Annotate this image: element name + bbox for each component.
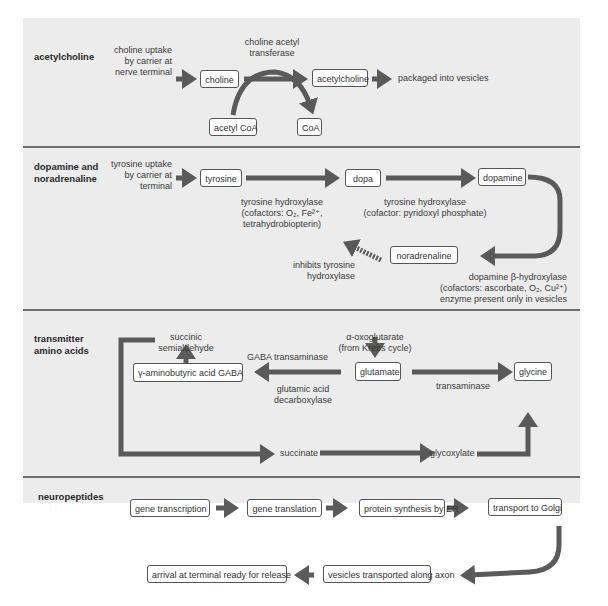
- box-transport-golgi: transport to Golgi: [488, 498, 562, 516]
- box-dopamine: dopamine: [478, 168, 526, 186]
- section-title-amino-acids: transmitter amino acids: [34, 333, 89, 357]
- section-title-neuropeptides: neuropeptides: [38, 491, 103, 503]
- box-tyrosine: tyrosine: [200, 169, 242, 187]
- glutamic-acid-decarboxylase-label: glutamic acid decarboxylase: [268, 384, 338, 406]
- tyrosine-uptake-label: tyrosine uptake by carrier at terminal: [100, 159, 172, 192]
- tyrosine-hydroxylase-1-label: tyrosine hydroxylase (cofactors: O₂, Fe²…: [232, 197, 332, 230]
- box-arrival-terminal: arrival at terminal ready for release: [147, 565, 287, 583]
- box-gene-translation: gene translation: [247, 499, 322, 517]
- box-noradrenaline: noradrenaline: [390, 246, 458, 264]
- glycoxylate-label: glycoxylate: [430, 448, 475, 459]
- box-glutamate: glutamate: [355, 362, 401, 381]
- box-dopa: dopa: [345, 169, 381, 187]
- box-choline: choline: [200, 70, 239, 88]
- choline-acetyltransferase-label: choline acetyl transferase: [232, 37, 312, 59]
- section-title-acetylcholine: acetylcholine: [34, 51, 94, 63]
- inhibits-tyrosine-hydroxylase-label: inhibits tyrosine hydroxylase: [280, 260, 355, 282]
- box-vesicles-transported: vesicles transported along axon: [323, 565, 431, 583]
- transaminase-label: transaminase: [436, 381, 490, 392]
- dopamine-beta-hydroxylase-label: dopamine β-hydroxylase (cofactors: ascor…: [400, 272, 567, 305]
- section-title-dopamine: dopamine and noradrenaline: [34, 161, 98, 185]
- box-acetylcholine: acetylcholine: [312, 69, 368, 87]
- gaba-transaminase-label: GABA transaminase: [247, 352, 328, 363]
- box-acetyl-coa: acetyl CoA: [209, 118, 257, 136]
- choline-uptake-label: choline uptake by carrier at nerve termi…: [100, 45, 172, 78]
- box-gaba: γ-aminobutyric acid GABA: [133, 363, 243, 382]
- tyrosine-hydroxylase-2-label: tyrosine hydroxylase (cofactor: pyridoxy…: [360, 197, 490, 219]
- packaged-into-vesicles-label: packaged into vesicles: [398, 73, 489, 84]
- succinic-semialdehyde-label: succinic semialdehyde: [155, 332, 217, 354]
- box-gene-transcription: gene transcription: [130, 499, 210, 517]
- box-coa: CoA: [297, 118, 322, 136]
- box-protein-synthesis: protein synthesis by ER: [359, 499, 445, 517]
- succinate-label: succinate: [280, 448, 318, 459]
- box-glycine: glycine: [514, 362, 552, 381]
- oxoglutarate-label: α-oxoglutarate (from Krebs cycle): [330, 332, 420, 354]
